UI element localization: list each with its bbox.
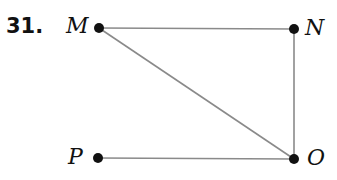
segment-mn (99, 28, 294, 29)
point-m (94, 23, 104, 33)
label-n: N (305, 15, 324, 40)
point-n (289, 24, 299, 34)
label-m: M (66, 13, 89, 38)
label-p: P (68, 144, 83, 169)
label-o: O (307, 145, 325, 170)
point-p (93, 153, 103, 163)
point-o (289, 154, 299, 164)
segment-mo (99, 28, 294, 159)
geometry-diagram (0, 0, 337, 180)
segment-po (98, 158, 294, 159)
